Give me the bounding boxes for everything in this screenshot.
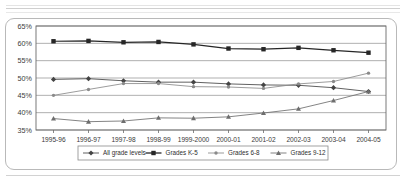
x-tick-label-3: 1998-99 (146, 136, 171, 143)
legend-marker-square (151, 151, 155, 155)
legend-label-1: Grades K-5 (166, 149, 199, 156)
data-point-2-6 (262, 87, 265, 90)
data-point-2-4 (192, 85, 195, 88)
x-tick-label-4: 1999-2000 (178, 136, 210, 143)
y-tick-label-50: 50% (18, 74, 33, 83)
data-point-1-7 (296, 46, 300, 50)
data-point-2-1 (87, 88, 90, 91)
series-line-0 (54, 79, 369, 92)
data-point-1-9 (366, 50, 370, 54)
series-line-2 (54, 73, 369, 95)
x-tick-label-9: 2004-05 (356, 136, 381, 143)
data-point-1-1 (86, 39, 90, 43)
data-point-2-7 (297, 82, 300, 85)
data-point-2-2 (122, 82, 125, 85)
series-grades-6-8 (52, 71, 370, 97)
data-point-2-3 (157, 82, 160, 85)
legend-marker-asterisk (214, 151, 217, 154)
data-series-group (51, 39, 371, 124)
data-point-2-8 (332, 80, 335, 83)
data-point-1-8 (331, 48, 335, 52)
page-rule-top-2 (6, 8, 400, 9)
data-point-0-4 (191, 80, 196, 85)
x-tick-label-6: 2001-02 (251, 136, 276, 143)
x-tick-label-8: 2003-04 (321, 136, 346, 143)
page-rule-top-1 (6, 5, 400, 6)
chart-legend: All grade levelsGrades K-5Grades 6-8Grad… (78, 146, 328, 160)
data-point-1-6 (261, 47, 265, 51)
data-point-0-1 (86, 76, 91, 81)
y-tick-label-65: 65% (18, 22, 33, 31)
page-rule-top-3 (6, 12, 400, 13)
series-grades-k-5 (51, 39, 370, 55)
data-point-3-0 (51, 116, 56, 121)
data-point-1-2 (121, 40, 125, 44)
data-point-1-3 (156, 40, 160, 44)
series-line-3 (54, 92, 369, 122)
data-point-1-5 (226, 46, 230, 50)
series-line-1 (54, 41, 369, 53)
y-tick-label-35: 35% (18, 126, 33, 135)
data-point-1-4 (191, 42, 195, 46)
y-tick-label-60: 60% (18, 39, 33, 48)
y-tick-label-45: 45% (18, 91, 33, 100)
data-point-2-5 (227, 85, 230, 88)
legend-label-0: All grade levels (103, 149, 146, 157)
line-chart: 35%40%45%50%55%60%65% 1995-961996-971997… (5, 18, 397, 170)
series-all-grade-levels (51, 76, 371, 94)
x-tick-label-0: 1995-96 (41, 136, 66, 143)
data-point-0-0 (51, 77, 56, 82)
x-tick-label-1: 1996-97 (76, 136, 101, 143)
chart-svg: 35%40%45%50%55%60%65% 1995-961996-971997… (5, 18, 397, 170)
data-point-1-0 (51, 39, 55, 43)
x-tick-label-2: 1997-98 (111, 136, 136, 143)
page-rule-bottom-1 (6, 175, 400, 176)
legend-label-2: Grades 6-8 (228, 149, 260, 156)
y-tick-labels: 35%40%45%50%55%60%65% (18, 22, 33, 135)
data-point-0-8 (331, 85, 336, 90)
x-tick-label-5: 2000-01 (216, 136, 241, 143)
legend-label-3: Grades 9-12 (291, 149, 326, 156)
y-tick-label-55: 55% (18, 56, 33, 65)
series-grades-9-12 (51, 89, 371, 124)
x-tick-label-7: 2002-03 (286, 136, 311, 143)
data-point-2-9 (367, 71, 370, 74)
data-point-2-0 (52, 94, 55, 97)
y-tick-label-40: 40% (18, 108, 33, 117)
x-tick-labels: 1995-961996-971997-981998-991999-2000200… (41, 136, 381, 143)
page-root: 35%40%45%50%55%60%65% 1995-961996-971997… (0, 0, 406, 184)
